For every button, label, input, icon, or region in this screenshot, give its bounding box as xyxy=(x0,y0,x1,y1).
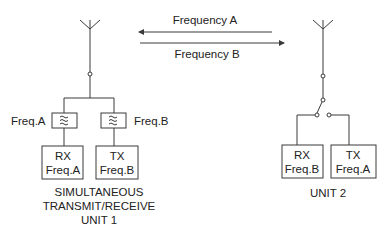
filter-b-label: Freq.B xyxy=(134,115,169,127)
connector-node xyxy=(321,74,325,78)
connector-node xyxy=(88,72,92,76)
antenna-icon xyxy=(80,20,100,98)
frequency-a-label: Frequency A xyxy=(173,14,238,26)
unit-2: RX Freq.B TX Freq.A UNIT 2 xyxy=(282,20,376,199)
unit-1-caption-line-1: SIMULTANEOUS xyxy=(54,186,143,198)
tx-frequency: Freq.B xyxy=(100,164,135,176)
switch-contact-tx xyxy=(327,113,331,117)
unit-2-caption: UNIT 2 xyxy=(310,187,346,199)
rx-label: RX xyxy=(294,149,310,161)
rx-label: RX xyxy=(55,150,71,162)
rx-frequency: Freq.A xyxy=(46,164,81,176)
unit-1-caption-line-3: UNIT 1 xyxy=(81,214,117,226)
tx-label: TX xyxy=(110,150,125,162)
filter-a-label: Freq.A xyxy=(11,115,46,127)
radio-duplex-diagram: Frequency A Frequency B Freq.A Freq.B RX xyxy=(0,0,389,232)
unit-1-caption-line-2: TRANSMIT/RECEIVE xyxy=(43,200,156,212)
rx-frequency: Freq.B xyxy=(285,163,320,175)
frequency-b-label: Frequency B xyxy=(174,48,240,60)
unit-1: Freq.A Freq.B RX Freq.A TX Freq.B SIMULT… xyxy=(11,20,169,226)
switch-arm-icon xyxy=(317,102,322,113)
frequency-arrows: Frequency A Frequency B xyxy=(139,14,284,60)
tx-frequency: Freq.A xyxy=(336,163,371,175)
antenna-icon xyxy=(313,20,333,98)
switch-pivot xyxy=(321,98,325,102)
switch-contact-rx xyxy=(315,113,319,117)
tx-label: TX xyxy=(346,149,361,161)
